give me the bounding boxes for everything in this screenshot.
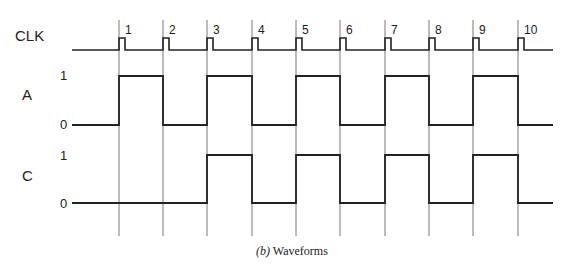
clock-number-4: 4 xyxy=(258,23,265,37)
a-low-level: 0 xyxy=(60,117,67,132)
clock-number-9: 9 xyxy=(479,23,486,37)
clock-number-1: 1 xyxy=(125,23,132,37)
clock-number-5: 5 xyxy=(302,23,309,37)
timing-diagram: 12345678910 CLK A 1 0 C 1 0 (b) Waveform… xyxy=(0,0,583,265)
caption-prefix: (b) xyxy=(256,244,270,258)
clock-number-8: 8 xyxy=(435,23,442,37)
clock-pulse-numbers: 12345678910 xyxy=(125,23,538,37)
a-waveform xyxy=(72,76,553,125)
clock-number-3: 3 xyxy=(213,23,220,37)
a-label: A xyxy=(22,86,32,103)
clk-label: CLK xyxy=(15,27,44,44)
clock-number-6: 6 xyxy=(346,23,353,37)
caption: (b) Waveforms xyxy=(256,244,328,258)
caption-text: Waveforms xyxy=(270,244,328,258)
c-label: C xyxy=(22,167,33,184)
clock-number-10: 10 xyxy=(524,23,538,37)
clk-waveform xyxy=(72,38,553,50)
clock-number-7: 7 xyxy=(391,23,398,37)
c-waveform xyxy=(72,155,553,203)
c-low-level: 0 xyxy=(60,196,67,211)
clock-number-2: 2 xyxy=(169,23,176,37)
a-high-level: 1 xyxy=(60,68,67,83)
c-high-level: 1 xyxy=(60,148,67,163)
